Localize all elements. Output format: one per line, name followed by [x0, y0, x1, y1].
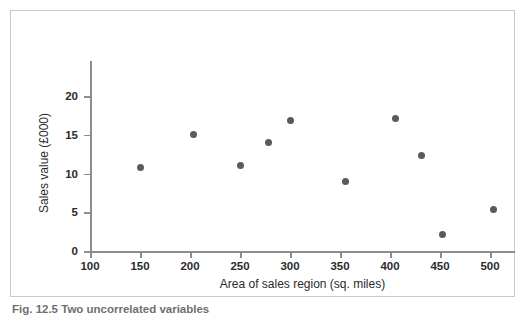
y-tick-label: 10	[52, 168, 78, 180]
x-tick-mark	[340, 252, 342, 258]
x-tick-label: 400	[380, 260, 399, 272]
x-tick-mark	[440, 252, 442, 258]
data-point	[392, 115, 399, 122]
y-tick-mark	[84, 174, 90, 176]
x-tick-label: 250	[230, 260, 249, 272]
data-point	[137, 164, 144, 171]
x-tick-mark	[90, 252, 92, 258]
figure-caption: Fig. 12.5 Two uncorrelated variables	[12, 303, 209, 315]
data-point	[287, 117, 294, 124]
x-tick-label: 150	[130, 260, 149, 272]
x-tick-mark	[140, 252, 142, 258]
scatter-plot: 05101520 100150200250300350400450500 Are…	[11, 11, 514, 296]
x-tick-label: 500	[480, 260, 499, 272]
x-axis-line	[90, 251, 515, 253]
x-tick-mark	[490, 252, 492, 258]
y-axis-line	[90, 61, 92, 252]
x-tick-label: 450	[430, 260, 449, 272]
figure-frame: 05101520 100150200250300350400450500 Are…	[10, 10, 515, 297]
x-tick-mark	[190, 252, 192, 258]
y-tick-label: 0	[52, 245, 78, 257]
y-tick-label: 20	[52, 90, 78, 102]
x-axis-title: Area of sales region (sq. miles)	[90, 277, 515, 291]
x-tick-label: 350	[330, 260, 349, 272]
y-tick-label: 5	[52, 206, 78, 218]
x-tick-label: 100	[80, 260, 99, 272]
x-tick-label: 300	[280, 260, 299, 272]
x-tick-mark	[290, 252, 292, 258]
data-point	[265, 139, 272, 146]
data-point	[237, 162, 244, 169]
data-point	[418, 152, 425, 159]
y-axis-title: Sales value (£000)	[37, 68, 51, 258]
data-point	[342, 178, 349, 185]
y-tick-mark	[84, 135, 90, 137]
x-tick-label: 200	[180, 260, 199, 272]
y-tick-mark	[84, 96, 90, 98]
data-point	[190, 131, 197, 138]
x-tick-mark	[240, 252, 242, 258]
x-tick-mark	[390, 252, 392, 258]
y-tick-label: 15	[52, 129, 78, 141]
data-point	[490, 206, 497, 213]
y-tick-mark	[84, 212, 90, 214]
data-point	[439, 231, 446, 238]
